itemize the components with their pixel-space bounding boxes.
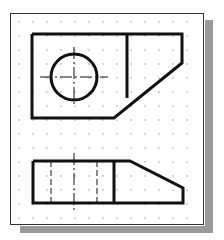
- grid-dot: [46, 133, 47, 134]
- grid-dot: [186, 49, 187, 50]
- grid-dot: [46, 175, 47, 176]
- grid-dot: [32, 119, 33, 120]
- grid-dot: [32, 21, 33, 22]
- grid-dot: [32, 147, 33, 148]
- grid-dot: [116, 63, 117, 64]
- grid-dot: [74, 21, 75, 22]
- grid-dot: [116, 175, 117, 176]
- grid-dot: [186, 21, 187, 22]
- grid-dot: [144, 77, 145, 78]
- grid-dot: [172, 217, 173, 218]
- grid-dot: [186, 175, 187, 176]
- grid-dot: [116, 133, 117, 134]
- grid-dot: [116, 21, 117, 22]
- grid-dot: [144, 105, 145, 106]
- grid-dot: [102, 119, 103, 120]
- grid-dot: [158, 161, 159, 162]
- grid-dot: [102, 91, 103, 92]
- grid-dot: [172, 175, 173, 176]
- grid-dot: [186, 119, 187, 120]
- grid-dot: [88, 21, 89, 22]
- grid-dot: [18, 35, 19, 36]
- grid-dot: [18, 105, 19, 106]
- grid-dot: [116, 189, 117, 190]
- grid-dot: [144, 35, 145, 36]
- front-view: [33, 153, 183, 211]
- grid-dot: [102, 63, 103, 64]
- grid-dot: [144, 147, 145, 148]
- grid-dot: [158, 105, 159, 106]
- grid-dot: [18, 133, 19, 134]
- grid-dot: [158, 189, 159, 190]
- grid-dot: [130, 217, 131, 218]
- grid-dot: [46, 35, 47, 36]
- grid-dot: [18, 203, 19, 204]
- grid-dot: [88, 119, 89, 120]
- grid-dot: [186, 133, 187, 134]
- grid-dot: [116, 91, 117, 92]
- grid-dot: [102, 21, 103, 22]
- grid-dot: [102, 175, 103, 176]
- grid-dot: [186, 217, 187, 218]
- grid-dot: [186, 91, 187, 92]
- grid-dot: [158, 147, 159, 148]
- grid-dot: [46, 91, 47, 92]
- grid-dot: [60, 21, 61, 22]
- grid-dot: [144, 189, 145, 190]
- grid-dot: [46, 189, 47, 190]
- grid-dot: [74, 91, 75, 92]
- grid-dot: [102, 77, 103, 78]
- grid-dot: [158, 119, 159, 120]
- grid-dot: [46, 147, 47, 148]
- grid-dot: [46, 63, 47, 64]
- grid-dot: [74, 35, 75, 36]
- grid-dot: [46, 119, 47, 120]
- grid-dot: [46, 21, 47, 22]
- grid-dot: [60, 105, 61, 106]
- grid-dot: [158, 217, 159, 218]
- grid-dot: [144, 21, 145, 22]
- grid-dot: [158, 49, 159, 50]
- grid-dot: [130, 147, 131, 148]
- orthographic-drawing: [0, 0, 224, 240]
- grid-dot: [74, 133, 75, 134]
- grid-dot: [74, 77, 75, 78]
- grid-dot: [158, 91, 159, 92]
- grid-dot: [102, 105, 103, 106]
- grid-dot: [172, 147, 173, 148]
- grid-dot: [172, 119, 173, 120]
- grid-dot: [130, 35, 131, 36]
- grid-dot: [144, 175, 145, 176]
- grid-dot: [172, 77, 173, 78]
- grid-dot: [102, 133, 103, 134]
- grid-dot: [74, 105, 75, 106]
- grid-dot: [74, 189, 75, 190]
- grid-dot: [18, 217, 19, 218]
- grid-dot: [130, 77, 131, 78]
- grid-dot: [172, 189, 173, 190]
- grid-dot: [46, 105, 47, 106]
- grid-dot: [172, 63, 173, 64]
- grid-dot: [172, 133, 173, 134]
- grid-dot: [186, 203, 187, 204]
- grid-dot: [116, 119, 117, 120]
- grid-dot: [172, 91, 173, 92]
- grid-dot: [60, 49, 61, 50]
- grid-dot: [186, 105, 187, 106]
- grid-dot: [186, 63, 187, 64]
- grid-dot: [172, 161, 173, 162]
- grid-dot: [130, 189, 131, 190]
- grid-dot: [116, 35, 117, 36]
- grid-dot: [18, 119, 19, 120]
- grid-dot: [186, 147, 187, 148]
- grid-dot: [116, 49, 117, 50]
- grid-dot: [186, 77, 187, 78]
- grid-dot: [158, 133, 159, 134]
- grid-dot: [60, 133, 61, 134]
- grid-dot: [74, 119, 75, 120]
- grid-dot: [130, 175, 131, 176]
- grid-dot: [172, 21, 173, 22]
- grid-dot: [46, 49, 47, 50]
- grid-dot: [18, 161, 19, 162]
- front-view-outline: [33, 161, 183, 203]
